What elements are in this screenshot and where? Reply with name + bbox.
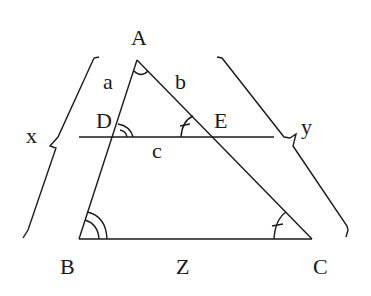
- angle-arc-e: [181, 116, 193, 137]
- segment-label-z: Z: [176, 254, 189, 279]
- point-label-e: E: [214, 108, 227, 133]
- segment-label-a: a: [103, 69, 113, 94]
- angle-arc-b-outer: [87, 212, 107, 239]
- angle-tick-c: [272, 224, 283, 226]
- brace-label-x: x: [26, 123, 37, 148]
- point-label-d: D: [96, 108, 112, 133]
- point-label-c: C: [313, 254, 328, 279]
- angle-arc-d-inner: [120, 130, 127, 137]
- point-label-a: A: [131, 25, 147, 50]
- segment-label-b: b: [175, 69, 186, 94]
- brace-y: [217, 57, 348, 237]
- brace-label-y: y: [301, 114, 312, 139]
- point-label-b: B: [60, 254, 75, 279]
- similar-triangles-diagram: A B C D E a b c Z x y: [0, 0, 371, 296]
- angle-tick-e: [180, 124, 190, 126]
- segment-label-c: c: [152, 138, 162, 163]
- angle-arc-a: [134, 71, 148, 75]
- diagram-canvas: A B C D E a b c Z x y: [0, 0, 371, 296]
- angle-arc-b-inner: [85, 220, 99, 239]
